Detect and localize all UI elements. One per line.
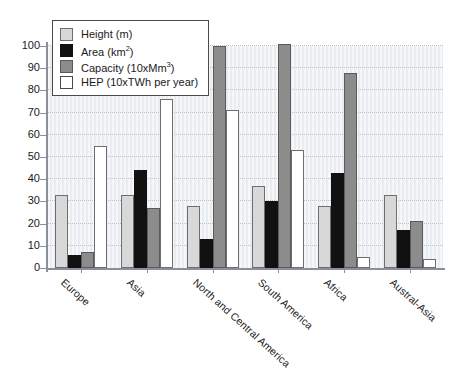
y-axis-label: 100 [6,40,40,51]
bar [318,206,331,268]
legend-item: Capacity (10xMm3) [60,58,198,74]
y-axis-tick [40,201,46,202]
legend-swatch-area [60,44,73,57]
bar [55,195,68,268]
y-axis-tick [40,68,46,69]
bar-group [377,46,443,268]
legend-item-label: Area (km2) [81,43,133,58]
bar [200,239,213,268]
legend-item-label: Height (m) [81,28,132,40]
bar [291,150,304,268]
bar [265,201,278,268]
y-axis-tick [40,113,46,114]
legend-item-label: Capacity (10xMm3) [81,59,174,74]
legend-swatch-height [60,28,73,41]
bar-chart: 0102030405060708090100 EuropeAsiaNorth a… [0,0,473,382]
x-axis-category-label: Austral-Asia [388,276,439,324]
bar-group [311,46,377,268]
bar [147,208,160,268]
x-axis-tick [278,268,279,273]
bar [357,257,370,268]
bar [226,110,239,268]
y-axis-label: 40 [6,173,40,184]
x-axis-tick [410,268,411,273]
legend-item: Height (m) [60,26,198,42]
y-axis-line [46,42,48,272]
bar [187,206,200,268]
x-axis-tick [213,268,214,273]
bar [410,221,423,268]
y-axis-label: 20 [6,218,40,229]
y-axis-tick [40,135,46,136]
y-axis-tick [40,157,46,158]
x-axis-line [46,268,445,270]
y-axis-tick [40,179,46,180]
x-axis-tick [81,268,82,273]
x-axis-tick [344,268,345,273]
x-axis-category-label: Africa [322,276,350,303]
y-axis-label: 10 [6,240,40,251]
y-axis-label: 90 [6,62,40,73]
y-axis-label: 30 [6,195,40,206]
bar [68,255,81,268]
y-axis-label: 70 [6,107,40,118]
legend-swatch-capacity [60,60,73,73]
bar-group [246,46,312,268]
y-axis-label: 50 [6,151,40,162]
bar [213,46,226,268]
bar [397,230,410,268]
legend-item: Area (km2) [60,42,198,58]
bar [331,173,344,268]
bar [94,146,107,268]
bar [278,44,291,268]
x-axis-category-label: South America [256,276,316,331]
bar [423,259,436,268]
legend-item: HEP (10xTWh per year) [60,74,198,90]
legend-item-label: HEP (10xTWh per year) [81,76,198,88]
y-axis-label: 0 [6,262,40,273]
x-axis-tick [147,268,148,273]
bar [160,99,173,268]
x-axis-category-label: Asia [125,276,149,299]
bar [384,195,397,268]
y-axis-label: 60 [6,129,40,140]
y-axis-label: 80 [6,84,40,95]
y-axis-tick [40,46,46,47]
legend-swatch-hep [60,76,73,89]
bar [344,73,357,268]
y-axis-tick [40,246,46,247]
y-axis-tick [40,90,46,91]
x-axis-category-label: Europe [59,276,93,308]
bar [121,195,134,268]
bar [252,186,265,268]
legend: Height (m)Area (km2)Capacity (10xMm3)HEP… [52,20,209,96]
bar [134,170,147,268]
bar [81,252,94,268]
y-axis-tick [40,224,46,225]
